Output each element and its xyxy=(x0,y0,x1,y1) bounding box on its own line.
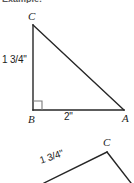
triangle-2-side-right xyxy=(107,152,131,183)
triangle-1-hypotenuse-ca xyxy=(33,25,124,110)
triangle-2-vertex-label-c: C xyxy=(103,137,110,148)
right-angle-marker-at-b xyxy=(33,101,42,110)
triangle-1-group xyxy=(33,25,124,110)
triangle-1-base-measure-label: 2" xyxy=(64,112,73,122)
triangle-1-vertex-label-a: A xyxy=(122,113,129,124)
figure-stage: Example: C B A 1 3/4" 2" C 1 3/4" xyxy=(0,0,134,183)
triangle-1-leg-measure-label: 1 3/4" xyxy=(2,55,27,65)
triangle-1-vertex-label-b: B xyxy=(28,114,35,125)
triangle-1-vertex-label-c: C xyxy=(28,11,35,22)
geometry-drawing-canvas xyxy=(0,0,134,183)
